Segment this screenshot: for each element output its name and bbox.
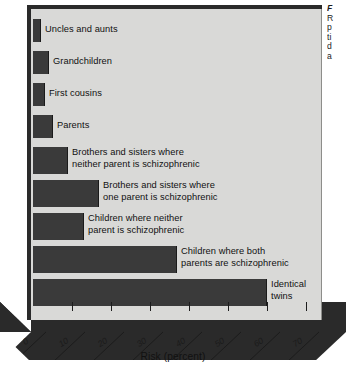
tick-mark-40	[189, 302, 190, 311]
tick-label-70: 70	[291, 335, 304, 349]
tick-mark-10	[72, 302, 73, 311]
tick-label-30: 30	[135, 335, 148, 349]
tick-mark-30	[150, 302, 151, 311]
figure-caption-fragment: F R p ti d a	[327, 4, 346, 62]
x-axis: 0 10 20 30 40 50 60 70	[0, 0, 346, 372]
tick-mark-20	[111, 302, 112, 311]
tick-label-40: 40	[174, 335, 187, 349]
tick-mark-70	[306, 302, 307, 311]
tick-label-0: 0	[21, 336, 30, 347]
tick-mark-60	[267, 302, 268, 311]
x-axis-title: Risk (percent)	[0, 351, 346, 362]
tick-label-50: 50	[213, 335, 226, 349]
tick-label-20: 20	[96, 335, 109, 349]
chart-figure: Uncles and aunts Grandchildren First cou…	[0, 0, 346, 372]
tick-label-60: 60	[252, 335, 265, 349]
tick-mark-50	[228, 302, 229, 311]
caption-line-6: a	[327, 52, 346, 62]
tick-label-10: 10	[57, 335, 70, 349]
